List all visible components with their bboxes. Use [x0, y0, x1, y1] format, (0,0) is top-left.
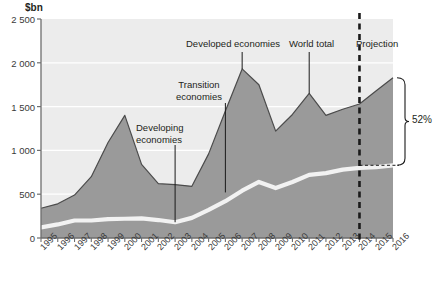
percent-bracket	[397, 78, 409, 166]
annotation-transition-line2: economies	[176, 91, 222, 103]
y-tick-label: 500	[1, 189, 35, 200]
annotation-world-total: World total	[289, 38, 334, 49]
annotation-developed-economies: Developed economies	[186, 38, 280, 49]
annotation-developing-line1: Developing	[136, 122, 184, 134]
y-tick-label: 2 500	[1, 14, 35, 25]
annotation-projection: Projection	[356, 38, 398, 49]
y-tick-label: 1 000	[1, 145, 35, 156]
y-tick-label: 2 000	[1, 57, 35, 68]
fdi-area-chart: $bn 2 5002 0001 5001 0005000 D	[0, 0, 445, 283]
annotation-transition-line1: Transition	[176, 79, 222, 91]
y-axis-tick-labels: 2 5002 0001 5001 0005000	[0, 0, 35, 283]
bracket-percent-label: 52%	[412, 114, 432, 125]
annotation-transition-economies: Transition economies	[176, 79, 222, 102]
annotation-developing-economies: Developing economies	[136, 122, 184, 145]
y-tick-label: 0	[1, 233, 35, 244]
annotation-developing-line2: economies	[136, 134, 184, 146]
y-tick-label: 1 500	[1, 101, 35, 112]
